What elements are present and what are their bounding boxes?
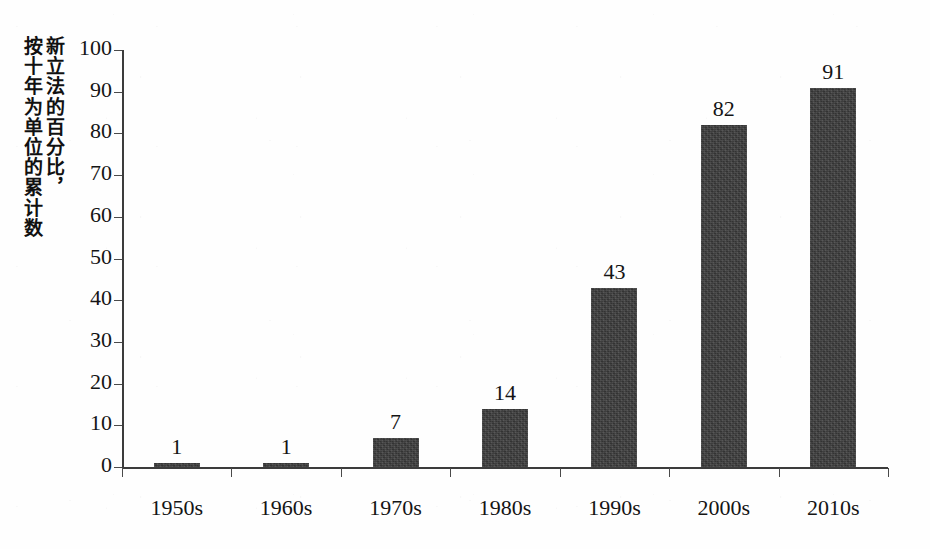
bar: 1 [263, 463, 309, 467]
x-axis-category-label: 1970s [369, 496, 422, 520]
y-axis-tick-label: 20 [90, 371, 112, 393]
bar: 1 [154, 463, 200, 467]
x-axis-category-label: 1950s [150, 496, 203, 520]
y-axis-tick-mark [114, 342, 122, 343]
x-axis-category-label: 2000s [698, 496, 751, 520]
y-axis-tick-label: 70 [90, 162, 112, 184]
y-axis-tick-label: 100 [79, 37, 112, 59]
bar: 14 [482, 409, 528, 467]
y-axis-tick-mark [114, 50, 122, 51]
y-axis-tick-mark [114, 300, 122, 301]
y-axis-tick-label: 80 [90, 120, 112, 142]
bar: 91 [810, 88, 856, 467]
y-axis-title: 新立法的百分比， 按十年为单位的累计数 [26, 36, 64, 506]
x-axis-tick-mark [341, 468, 342, 477]
x-axis-tick-mark [888, 468, 889, 477]
x-axis-tick-mark [779, 468, 780, 477]
x-axis-tick-mark [122, 468, 123, 477]
y-axis-tick-label: 0 [101, 454, 112, 476]
y-axis-tick-mark [114, 92, 122, 93]
y-axis-tick-mark [114, 384, 122, 385]
bar: 82 [701, 125, 747, 467]
y-axis-line [122, 50, 124, 469]
y-axis-tick-label: 40 [90, 287, 112, 309]
y-axis-tick-label: 50 [90, 246, 112, 268]
bar-value-label: 1 [281, 436, 292, 458]
x-axis-tick-mark [450, 468, 451, 477]
plot-area: 0102030405060708090100 11714438291 1950s… [122, 50, 888, 468]
y-axis-tick-mark [114, 467, 122, 468]
bar-value-label: 14 [494, 382, 516, 404]
y-axis-tick-mark [114, 175, 122, 176]
x-axis-category-label: 1980s [479, 496, 532, 520]
x-axis-tick-mark [231, 468, 232, 477]
bar-chart-figure: 新立法的百分比， 按十年为单位的累计数 01020304050607080901… [0, 0, 930, 549]
x-axis-tick-mark [560, 468, 561, 477]
x-axis-category-label: 1960s [260, 496, 313, 520]
y-axis-tick-mark [114, 133, 122, 134]
y-axis-tick-label: 30 [90, 329, 112, 351]
bar: 7 [373, 438, 419, 467]
y-axis-tick-label: 90 [90, 79, 112, 101]
x-axis-category-label: 2010s [807, 496, 860, 520]
y-axis-tick-mark [114, 217, 122, 218]
y-axis-tick-label: 60 [90, 204, 112, 226]
x-axis-line [122, 467, 888, 469]
y-axis-tick-mark [114, 259, 122, 260]
x-axis-tick-mark [669, 468, 670, 477]
bar-value-label: 82 [713, 98, 735, 120]
bar-value-label: 43 [603, 261, 625, 283]
bar-value-label: 91 [822, 61, 844, 83]
bar-value-label: 7 [390, 411, 401, 433]
x-axis-category-label: 1990s [588, 496, 641, 520]
y-axis-tick-label: 10 [90, 412, 112, 434]
bar: 43 [591, 288, 637, 467]
bar-value-label: 1 [171, 436, 182, 458]
y-axis-tick-mark [114, 425, 122, 426]
